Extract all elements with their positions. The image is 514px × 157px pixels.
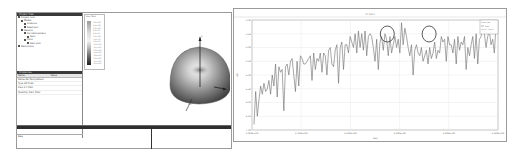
- radiation-pattern-plot[interactable]: Z X Phi: [84, 13, 230, 125]
- tree-node-icon: [21, 20, 23, 22]
- column-name[interactable]: Name: [17, 74, 50, 77]
- xy-plot-window: XY Plot 1 -3.00-3.50-4.00-4.50-5.00-5.50…: [233, 8, 507, 142]
- chart-legend[interactable]: Curve Info Gain Setup1 : Sweep: [480, 20, 498, 34]
- tree-item[interactable]: Definitions: [17, 45, 82, 48]
- tree-node-icon: [21, 29, 23, 31]
- tree-node-icon: [18, 16, 20, 18]
- x-tick-label: 2.000E+09: [246, 132, 259, 135]
- project-tree: Project rootModelAntennaFeed portResults…: [17, 16, 82, 48]
- 3d-radiation-pattern-view[interactable]: Z X Phi: [84, 13, 230, 125]
- tree-item-label: Definitions: [21, 45, 34, 48]
- x-tick-label: 2.300E+09: [393, 132, 406, 135]
- message-output-panel: [17, 125, 231, 149]
- y-axis-label: Phi: [188, 103, 192, 106]
- messages-header-bar: [17, 126, 231, 129]
- y-tick-label: -3.50: [245, 33, 251, 36]
- property-row[interactable]: Quantity Gain Total: [17, 91, 82, 95]
- y-tick-label: -3.00: [245, 19, 251, 22]
- x-tick-label: 2.400E+09: [443, 132, 456, 135]
- column-value[interactable]: Value: [50, 74, 83, 77]
- tree-node-icon: [24, 23, 26, 25]
- x-tick-label: 2.100E+09: [295, 132, 308, 135]
- tree-node-icon: [24, 26, 26, 28]
- field-viewer-window: Project Tree Project rootModelAntennaFee…: [16, 12, 232, 149]
- tree-node-icon: [24, 32, 26, 34]
- x-tick-label: 2.200E+09: [344, 132, 357, 135]
- x-tick-label: 2.500E+09: [492, 132, 505, 135]
- y-tick-label: -5.00: [245, 74, 251, 77]
- tree-node-icon: [24, 39, 26, 41]
- y-tick-label: -6.50: [245, 115, 251, 118]
- tree-node-icon: [27, 36, 29, 38]
- y-axis-ticks: -3.00-3.50-4.00-4.50-5.00-5.50-6.00-6.50…: [245, 19, 251, 132]
- output-divider[interactable]: [151, 129, 152, 149]
- tree-node-icon: [27, 42, 29, 44]
- y-tick-label: -4.50: [245, 60, 251, 63]
- tree-node-icon: [18, 45, 20, 47]
- z-axis-label: Z: [201, 35, 203, 38]
- y-tick-label: -6.00: [245, 101, 251, 104]
- y-tick-label: -4.00: [245, 46, 251, 49]
- properties-rows: Name Far-field patternType 3D PolarFreq …: [17, 78, 82, 95]
- x-axis-label: Freq: [373, 137, 378, 140]
- xy-line-chart[interactable]: XY Plot 1 -3.00-3.50-4.00-4.50-5.00-5.50…: [234, 9, 506, 141]
- y-tick-label: -5.50: [245, 88, 251, 91]
- x-axis-ticks: 2.000E+092.100E+092.200E+092.300E+092.40…: [246, 132, 505, 135]
- y-axis-label: dB: [236, 73, 239, 76]
- chart-title: XY Plot 1: [365, 13, 375, 16]
- project-tree-panel: Project Tree Project rootModelAntennaFee…: [17, 13, 83, 72]
